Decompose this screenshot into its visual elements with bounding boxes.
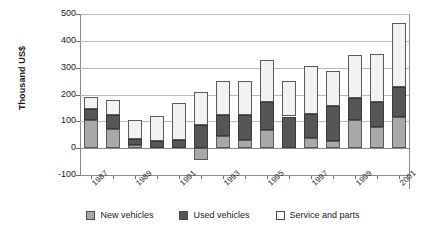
- bar-segment-new-vehicles: [84, 120, 98, 148]
- bar-segment-service-and-parts: [282, 81, 296, 116]
- bar-group: [234, 14, 256, 175]
- bar-segment-used-vehicles: [106, 115, 120, 128]
- bar-segment-new-vehicles: [194, 148, 208, 160]
- bar-segment-used-vehicles: [260, 102, 274, 130]
- bar-group: [366, 14, 388, 175]
- bar-segment-new-vehicles: [326, 141, 340, 149]
- bar-segment-used-vehicles: [282, 117, 296, 149]
- bar-segment-used-vehicles: [172, 140, 186, 149]
- bar-segment-new-vehicles: [106, 129, 120, 148]
- bar-group: [300, 14, 322, 175]
- y-axis-tick-200: 200: [40, 90, 76, 99]
- bar-segment-service-and-parts: [194, 92, 208, 126]
- y-axis-tick-500: 500: [40, 9, 76, 18]
- bar-segment-service-and-parts: [172, 103, 186, 139]
- bar-chart: Thousand US$ -1000100200300400500 New ve…: [0, 0, 446, 248]
- bar-segment-new-vehicles: [128, 145, 142, 148]
- bar-segment-used-vehicles: [128, 139, 142, 145]
- bar-segment-service-and-parts: [150, 116, 164, 141]
- bar-segment-used-vehicles: [326, 106, 340, 141]
- bar-segment-new-vehicles: [238, 140, 252, 148]
- legend-item-service-and-parts[interactable]: Service and parts: [276, 210, 360, 220]
- bar-segment-used-vehicles: [216, 115, 230, 136]
- bar-group: [322, 14, 344, 175]
- y-axis-tick-100: 100: [40, 116, 76, 125]
- bar-segment-new-vehicles: [260, 130, 274, 148]
- bar-group: [168, 14, 190, 175]
- bar-segment-used-vehicles: [348, 98, 362, 120]
- bar-segment-new-vehicles: [392, 117, 406, 149]
- bar-group: [146, 14, 168, 175]
- bar-group: [344, 14, 366, 175]
- y-axis-tick--100: -100: [40, 170, 76, 179]
- bar-segment-used-vehicles: [84, 109, 98, 120]
- y-axis-tick-labels: -1000100200300400500: [38, 0, 76, 190]
- bar-group: [80, 14, 102, 175]
- bar-segment-used-vehicles: [370, 102, 384, 127]
- bar-segment-service-and-parts: [370, 54, 384, 102]
- plot-right-rule: [409, 14, 410, 189]
- legend-item-new-vehicles[interactable]: New vehicles: [86, 210, 153, 220]
- bar-segment-used-vehicles: [304, 114, 318, 138]
- bar-segment-service-and-parts: [348, 55, 362, 98]
- bar-segment-service-and-parts: [216, 81, 230, 115]
- bar-group: [256, 14, 278, 175]
- bar-group: [190, 14, 212, 175]
- bar-group: [124, 14, 146, 175]
- swatch-used-vehicles-icon: [179, 211, 188, 220]
- plot-area: [80, 14, 410, 175]
- legend-label: Service and parts: [290, 210, 360, 220]
- bar-segment-new-vehicles: [348, 120, 362, 148]
- legend-item-used-vehicles[interactable]: Used vehicles: [179, 210, 249, 220]
- bar-segment-new-vehicles: [370, 127, 384, 148]
- chart-legend: New vehiclesUsed vehiclesService and par…: [0, 210, 446, 220]
- bar-group: [278, 14, 300, 175]
- bar-segment-used-vehicles: [392, 87, 406, 117]
- bar-group: [388, 14, 410, 175]
- y-axis-tick-400: 400: [40, 36, 76, 45]
- legend-label: New vehicles: [100, 210, 153, 220]
- bar-segment-service-and-parts: [260, 60, 274, 102]
- bar-group: [102, 14, 124, 175]
- bar-segment-new-vehicles: [304, 138, 318, 148]
- bar-segment-service-and-parts: [128, 120, 142, 139]
- y-axis-tick-300: 300: [40, 63, 76, 72]
- bar-segment-used-vehicles: [150, 141, 164, 149]
- swatch-service-and-parts-icon: [276, 211, 285, 220]
- bar-segment-service-and-parts: [392, 23, 406, 87]
- bar-segment-used-vehicles: [238, 115, 252, 140]
- bar-group: [212, 14, 234, 175]
- swatch-new-vehicles-icon: [86, 211, 95, 220]
- bar-segment-new-vehicles: [216, 136, 230, 148]
- bar-segment-service-and-parts: [304, 66, 318, 114]
- bar-segment-service-and-parts: [84, 97, 98, 109]
- bar-segment-service-and-parts: [238, 81, 252, 116]
- bar-segment-used-vehicles: [194, 125, 208, 148]
- legend-label: Used vehicles: [193, 210, 249, 220]
- y-axis-tick-0: 0: [40, 143, 76, 152]
- bar-segment-service-and-parts: [326, 71, 340, 106]
- y-axis-title: Thousand US$: [17, 33, 33, 123]
- bar-segment-service-and-parts: [106, 100, 120, 115]
